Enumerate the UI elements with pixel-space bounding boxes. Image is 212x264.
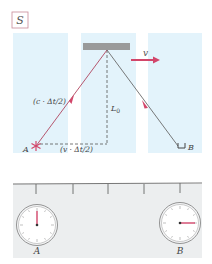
ruler-top-line [13, 183, 202, 184]
panel-left [13, 33, 68, 153]
base-label: (v · Δt/2) [60, 145, 93, 154]
panel-right [148, 33, 202, 153]
clock-b [160, 203, 201, 244]
frame-label: S [16, 14, 24, 27]
velocity-label: v [143, 48, 148, 58]
relativity-light-clock-diagram: S v (c · Δt/2) L0 (v · Δt/2) A B [0, 0, 212, 264]
frame-label-box: S [12, 12, 28, 28]
panel-middle [81, 33, 136, 153]
clock-a-label: A [33, 246, 41, 256]
ray-up-arrow-icon [69, 95, 74, 104]
detector-label: B [187, 143, 194, 152]
mirror [83, 43, 130, 50]
hypotenuse-label: (c · Δt/2) [33, 97, 66, 106]
source-label: A [22, 145, 29, 154]
clock-b-label: B [176, 246, 184, 256]
clock-a [17, 205, 58, 246]
